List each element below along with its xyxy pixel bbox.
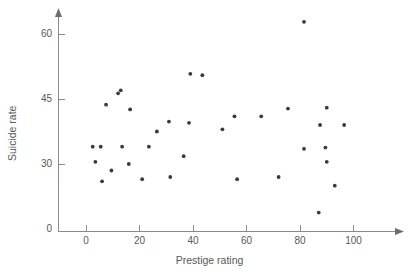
data-point: [302, 147, 306, 151]
y-axis-ticks: [59, 34, 66, 164]
data-point: [286, 107, 290, 111]
data-point: [233, 114, 237, 118]
data-point: [333, 184, 337, 188]
data-point: [104, 103, 108, 107]
data-point: [187, 121, 191, 125]
data-point: [235, 177, 239, 181]
data-point: [93, 160, 97, 164]
data-point: [342, 123, 346, 127]
data-point: [221, 127, 225, 131]
data-point: [302, 20, 306, 24]
data-point: [167, 120, 171, 124]
data-point: [119, 88, 123, 92]
data-point: [168, 175, 172, 179]
data-point: [140, 177, 144, 181]
y-axis-title: Suicide rate: [7, 88, 18, 178]
data-point: [277, 175, 281, 179]
data-point: [317, 211, 321, 215]
x-axis-title: Prestige rating: [0, 255, 419, 266]
data-point: [325, 160, 329, 164]
y-tick-label: 45: [30, 94, 52, 104]
data-point: [100, 179, 104, 183]
data-point: [110, 169, 114, 173]
data-point: [120, 145, 124, 149]
data-point: [127, 162, 131, 166]
scatter-plot-figure: 0304560 020406080100 Prestige rating Sui…: [0, 0, 419, 278]
data-point: [128, 108, 132, 112]
x-tick-label: 80: [294, 236, 305, 246]
x-tick-label: 60: [241, 236, 252, 246]
data-point: [200, 73, 204, 77]
y-tick-label: 30: [30, 159, 52, 169]
data-point: [318, 123, 322, 127]
data-point: [147, 145, 151, 149]
y-tick-label: 0: [30, 224, 52, 234]
data-point: [155, 130, 159, 134]
data-point: [116, 91, 120, 95]
data-point: [91, 145, 95, 149]
x-tick-label: 0: [83, 236, 89, 246]
data-point: [188, 72, 192, 76]
y-axis-arrow-icon: [55, 8, 62, 17]
data-point: [325, 106, 329, 110]
x-axis-ticks: [86, 225, 354, 232]
x-tick-label: 20: [134, 236, 145, 246]
x-axis-arrow-icon: [395, 228, 404, 235]
x-tick-label: 100: [345, 236, 362, 246]
data-points-layer: [91, 20, 346, 214]
y-tick-label: 60: [30, 29, 52, 39]
data-point: [324, 146, 328, 150]
data-point: [182, 154, 186, 158]
data-point: [99, 145, 103, 149]
data-point: [259, 114, 263, 118]
x-tick-label: 40: [187, 236, 198, 246]
